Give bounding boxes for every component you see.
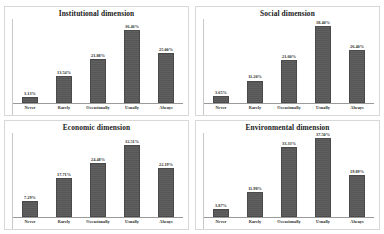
bar-value-label: 24.48% <box>91 158 105 162</box>
bar <box>247 81 263 103</box>
bar <box>90 59 106 103</box>
bar-value-label: 21.60% <box>282 55 296 59</box>
x-axis-tick-label: Usually <box>115 106 149 110</box>
panel-title: Environmental dimension <box>196 121 379 133</box>
bar <box>349 175 365 217</box>
bar <box>22 97 38 103</box>
bar <box>213 209 229 217</box>
panel-title: Economic dimension <box>5 121 188 133</box>
bar-slot: 38.40% <box>306 19 340 103</box>
bar <box>281 60 297 103</box>
bar-value-label: 36.46% <box>125 25 139 29</box>
bar <box>22 201 38 217</box>
bar-value-label: 11.98% <box>248 187 262 191</box>
bar <box>213 96 229 103</box>
plot-area: 3.65% 11.20% 21.60% 38.40% 26.40% <box>203 19 374 115</box>
bar <box>90 163 106 217</box>
bar-value-label: 11.20% <box>248 75 262 79</box>
bar-slot: 3.87% <box>204 133 238 217</box>
bar-value-label: 33.33% <box>282 142 296 146</box>
x-axis-tick-label: Usually <box>306 220 340 224</box>
bar-group: 7.29% 17.71% 24.48% 32.51% 22.19% <box>13 133 183 218</box>
bar <box>158 53 174 103</box>
bar <box>124 30 140 103</box>
bar-slot: 7.29% <box>13 133 47 217</box>
x-axis-tick-label: Usually <box>115 220 149 224</box>
bar-slot: 37.50% <box>306 133 340 217</box>
bar <box>56 178 72 217</box>
bar-value-label: 7.29% <box>24 196 36 200</box>
x-axis-tick-label: Occasionally <box>81 106 115 110</box>
bar-slot: 21.88% <box>81 19 115 103</box>
chart-panel-environmental: Environmental dimension 3.87% 11.98% 33.… <box>195 120 380 230</box>
bar-value-label: 13.54% <box>57 71 71 75</box>
bar-group: 3.13% 13.54% 21.88% 36.46% 25.00% <box>13 19 183 104</box>
x-axis-labels: Never Rarely Occasionally Usually Always <box>204 218 374 229</box>
x-axis-tick-label: Rarely <box>238 106 272 110</box>
bar-value-label: 3.13% <box>24 92 36 96</box>
bar-value-label: 19.89% <box>350 170 364 174</box>
bar <box>247 192 263 217</box>
bar-value-label: 3.65% <box>215 91 227 95</box>
x-axis-tick-label: Always <box>340 220 374 224</box>
x-axis-labels: Never Rarely Occasionally Usually Always <box>13 218 183 229</box>
bar-slot: 21.60% <box>272 19 306 103</box>
x-axis-labels: Never Rarely Occasionally Usually Always <box>204 104 374 115</box>
plot-area: 3.87% 11.98% 33.33% 37.50% 19.89% <box>203 133 374 229</box>
bar-value-label: 37.50% <box>316 133 330 137</box>
bar-slot: 11.98% <box>238 133 272 217</box>
x-axis-tick-label: Never <box>204 106 238 110</box>
x-axis-tick-label: Always <box>340 106 374 110</box>
bar-slot: 19.89% <box>340 133 374 217</box>
panel-title: Social dimension <box>196 7 379 19</box>
bar-value-label: 25.00% <box>159 48 173 52</box>
bar-slot: 17.71% <box>47 133 81 217</box>
x-axis-tick-label: Occasionally <box>272 106 306 110</box>
bar-slot: 24.48% <box>81 133 115 217</box>
chart-panel-economic: Economic dimension 7.29% 17.71% 24.48% 3… <box>4 120 189 230</box>
bar-group: 3.87% 11.98% 33.33% 37.50% 19.89% <box>204 133 374 218</box>
bar-slot: 32.51% <box>115 133 149 217</box>
bar <box>56 76 72 103</box>
bar <box>349 50 365 103</box>
bar-slot: 33.33% <box>272 133 306 217</box>
x-axis-labels: Never Rarely Occasionally Usually Always <box>13 104 183 115</box>
x-axis-tick-label: Occasionally <box>81 220 115 224</box>
bar <box>158 168 174 217</box>
bar-slot: 26.40% <box>340 19 374 103</box>
x-axis-tick-label: Rarely <box>47 106 81 110</box>
bar-slot: 25.00% <box>149 19 183 103</box>
plot-area: 7.29% 17.71% 24.48% 32.51% 22.19% <box>12 133 183 229</box>
bar <box>315 138 331 217</box>
x-axis-tick-label: Rarely <box>238 220 272 224</box>
chart-panel-institutional: Institutional dimension 3.13% 13.54% 21.… <box>4 6 189 116</box>
bar-slot: 13.54% <box>47 19 81 103</box>
bar <box>281 147 297 217</box>
bar-value-label: 3.87% <box>215 204 227 208</box>
bar-slot: 22.19% <box>149 133 183 217</box>
bar-value-label: 22.19% <box>159 163 173 167</box>
bar <box>315 26 331 103</box>
multi-panel-bar-chart-figure: Institutional dimension 3.13% 13.54% 21.… <box>0 0 384 234</box>
x-axis-tick-label: Never <box>13 220 47 224</box>
x-axis-tick-label: Always <box>149 106 183 110</box>
bar-slot: 3.65% <box>204 19 238 103</box>
plot-area: 3.13% 13.54% 21.88% 36.46% 25.00% <box>12 19 183 115</box>
chart-panel-social: Social dimension 3.65% 11.20% 21.60% 38.… <box>195 6 380 116</box>
x-axis-tick-label: Never <box>13 106 47 110</box>
bar-value-label: 17.71% <box>57 173 71 177</box>
x-axis-tick-label: Always <box>149 220 183 224</box>
x-axis-tick-label: Rarely <box>47 220 81 224</box>
bar-value-label: 38.40% <box>316 21 330 25</box>
bar-slot: 11.20% <box>238 19 272 103</box>
bar-value-label: 26.40% <box>350 45 364 49</box>
bar-value-label: 21.88% <box>91 54 105 58</box>
bar-group: 3.65% 11.20% 21.60% 38.40% 26.40% <box>204 19 374 104</box>
bar-slot: 36.46% <box>115 19 149 103</box>
bar-value-label: 32.51% <box>125 140 139 144</box>
panel-title: Institutional dimension <box>5 7 188 19</box>
x-axis-tick-label: Occasionally <box>272 220 306 224</box>
bar-slot: 3.13% <box>13 19 47 103</box>
bar <box>124 145 140 217</box>
x-axis-tick-label: Usually <box>306 106 340 110</box>
